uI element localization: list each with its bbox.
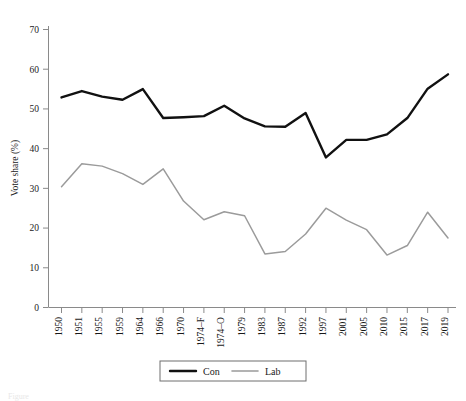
y-tick-label: 10 <box>30 263 40 273</box>
y-tick-label: 70 <box>30 25 40 35</box>
x-tick-label: 1950 <box>54 317 64 336</box>
x-tick-label: 1959 <box>115 317 125 336</box>
x-tick-label: 2019 <box>440 317 450 336</box>
y-tick-label: 40 <box>30 144 40 154</box>
x-tick-label: 1997 <box>318 317 328 336</box>
x-tick-label: 1979 <box>237 317 247 336</box>
x-tick-label: 2001 <box>338 317 348 336</box>
chart-background <box>0 0 466 401</box>
x-tick-label: 2010 <box>379 317 389 336</box>
figure-container: 010203040506070 195019511955195919641966… <box>0 0 466 401</box>
x-tick-label: 1955 <box>94 317 104 336</box>
x-tick-label: 1970 <box>176 317 186 336</box>
legend-label-con: Con <box>203 366 220 377</box>
x-tick-label: 2015 <box>399 317 409 336</box>
y-tick-label: 50 <box>30 104 40 114</box>
x-tick-label: 1987 <box>277 317 287 336</box>
x-tick-label: 2017 <box>420 317 430 336</box>
y-tick-label: 20 <box>30 223 40 233</box>
x-tick-label: 1951 <box>74 317 84 336</box>
y-tick-label: 30 <box>30 184 40 194</box>
x-tick-label: 1966 <box>155 317 165 336</box>
x-tick-label: 1992 <box>298 317 308 336</box>
y-tick-label: 60 <box>30 65 40 75</box>
x-tick-label: 1974–O <box>216 317 226 348</box>
vote-share-line-chart: 010203040506070 195019511955195919641966… <box>0 0 466 401</box>
legend-label-lab: Lab <box>265 366 281 377</box>
figure-caption: Figure <box>8 392 29 401</box>
y-tick-label: 0 <box>34 303 39 313</box>
x-tick-label: 1974–F <box>196 317 206 346</box>
x-tick-label: 1964 <box>135 317 145 336</box>
y-axis-title: Vote share (%) <box>10 140 21 196</box>
x-tick-label: 1983 <box>257 317 267 336</box>
chart-legend: Con Lab <box>160 361 306 381</box>
x-tick-label: 2005 <box>359 317 369 336</box>
